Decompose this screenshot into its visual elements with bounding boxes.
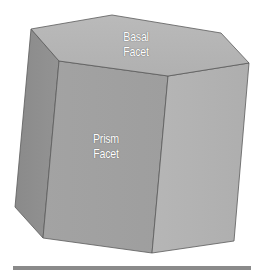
basal-label-line1: Basal	[121, 29, 151, 44]
basal-facet-label: Basal Facet	[121, 29, 151, 59]
basal-label-line2: Facet	[121, 44, 151, 59]
base-bar	[13, 266, 251, 270]
prism-label-line1: Prism	[91, 131, 121, 146]
prism-facet-label: Prism Facet	[91, 131, 121, 161]
right-prism-face	[152, 63, 249, 253]
prism-label-line2: Facet	[91, 146, 121, 161]
